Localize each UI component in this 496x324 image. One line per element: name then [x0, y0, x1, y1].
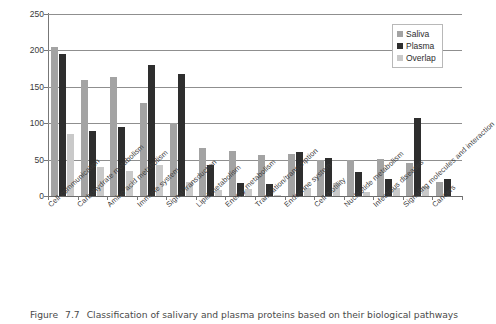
y-tick-label-250: 250 — [6, 10, 44, 19]
legend-item-label: Plasma — [406, 42, 434, 51]
figure-caption-text: Classification of salivary and plasma pr… — [87, 309, 458, 320]
legend-swatch-icon — [397, 31, 403, 37]
figure-caption-label: Figure — [30, 309, 58, 320]
y-tick-label-100: 100 — [6, 119, 44, 128]
legend-item: Overlap — [397, 52, 436, 64]
figure-caption: Figure7.7Classification of salivary and … — [30, 309, 482, 320]
legend-swatch-icon — [397, 43, 403, 49]
legend-swatch-icon — [397, 55, 403, 61]
legend-item-label: Overlap — [406, 54, 436, 63]
bar-saliva — [51, 47, 58, 196]
bar-plasma — [59, 54, 66, 196]
bar-group — [48, 14, 78, 196]
legend-item: Plasma — [397, 40, 436, 52]
y-tick-label-0: 0 — [6, 192, 44, 201]
chart-legend: SalivaPlasmaOverlap — [392, 24, 443, 68]
legend-item-label: Saliva — [406, 30, 429, 39]
bar-group — [344, 14, 374, 196]
y-tick-label-50: 50 — [6, 155, 44, 164]
legend-item: Saliva — [397, 28, 436, 40]
bar-plasma — [178, 74, 185, 196]
bar-saliva — [170, 123, 177, 196]
x-axis-labels: Cell communicationCarbohydrate metabolis… — [0, 200, 482, 304]
figure-caption-number: 7.7 — [65, 309, 80, 320]
y-tick-label-150: 150 — [6, 83, 44, 92]
bar-plasma — [148, 65, 155, 196]
y-tick-label-200: 200 — [6, 46, 44, 55]
